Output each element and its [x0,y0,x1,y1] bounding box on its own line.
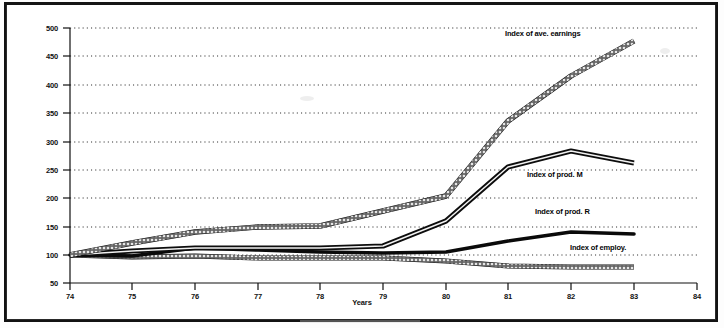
scan-artifact-speckle [660,48,670,54]
series-index-of-ave-earnings [70,41,634,255]
y-axis [63,28,70,283]
series-label-ave-earnings: Index of ave. earnings [505,29,580,38]
scan-artifact-speckle [300,320,420,323]
y-tick-label: 50 [34,279,58,288]
y-tick-label: 450 [34,52,58,61]
y-tick-label: 250 [34,166,58,175]
y-tick-label: 150 [34,223,58,232]
figure-container: 500 450 400 350 300 250 200 150 100 50 7… [0,0,724,328]
series-index-of-employ [70,255,634,267]
y-tick-label: 350 [34,109,58,118]
y-tick-label: 400 [34,81,58,90]
line-chart-plot [0,0,724,328]
series-label-employ: Index of employ. [570,243,626,252]
x-axis-title: Years [0,298,724,307]
y-tick-label: 200 [34,194,58,203]
series-label-prod-m: Index of prod. M [527,170,583,179]
series-label-prod-r: Index of prod. R [535,207,590,216]
x-axis [70,283,697,290]
gridlines [70,28,697,255]
y-tick-label: 500 [34,24,58,33]
y-tick-label: 300 [34,138,58,147]
scan-artifact-speckle [300,96,314,101]
y-tick-label: 100 [34,251,58,260]
